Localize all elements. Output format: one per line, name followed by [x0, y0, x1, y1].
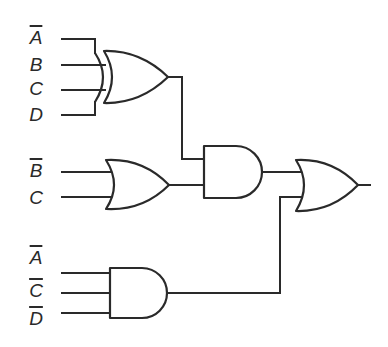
wire-and-bottom-to-final-or — [167, 197, 302, 293]
and-gate-middle — [204, 146, 262, 198]
wire-d-to-xor — [62, 102, 95, 115]
or-gate-middle — [106, 160, 169, 209]
or-gate-final — [296, 160, 358, 211]
label-c-2: C — [27, 188, 45, 207]
label-c-1: C — [27, 79, 45, 98]
logic-circuit-diagram: A B C D B C A C D — [0, 0, 388, 347]
label-a-bar-1: A — [27, 28, 45, 47]
xor-gate-inputs — [62, 39, 105, 115]
and-gate-bottom — [110, 268, 167, 318]
label-d-1: D — [27, 105, 45, 124]
label-a-bar-3: A — [27, 248, 45, 267]
xor-gate — [95, 51, 168, 103]
circuit-svg — [0, 0, 388, 347]
label-b-1: B — [27, 55, 45, 74]
label-b-bar-2: B — [27, 161, 45, 180]
wire-a-bar-to-xor — [62, 39, 95, 53]
xor-extra-curve — [95, 53, 103, 102]
wire-xor-to-and — [168, 77, 204, 159]
label-c-bar-3: C — [27, 281, 45, 300]
xor-gate-body — [104, 51, 168, 103]
label-d-bar-3: D — [27, 309, 45, 328]
